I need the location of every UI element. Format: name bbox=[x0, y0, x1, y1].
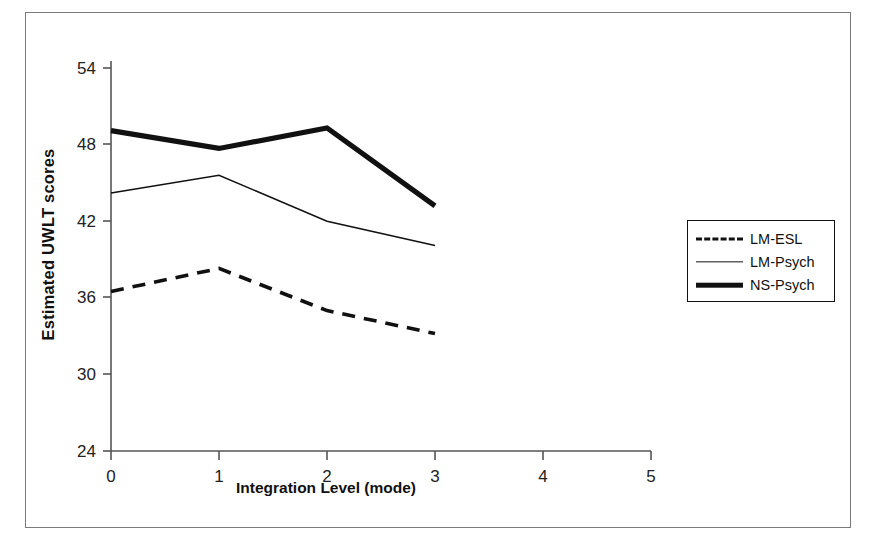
y-axis-title: Estimated UWLT scores bbox=[39, 75, 58, 415]
legend-label: NS-Psych bbox=[750, 277, 814, 293]
y-tick-label: 42 bbox=[54, 213, 96, 230]
y-tick-label: 36 bbox=[54, 289, 96, 306]
y-tick-label: 54 bbox=[54, 60, 96, 77]
legend-item-lm-esl: LM-ESL bbox=[696, 229, 802, 249]
legend-label: LM-Psych bbox=[750, 254, 814, 270]
thin-line-swatch-icon bbox=[696, 255, 743, 269]
legend-label: LM-ESL bbox=[750, 231, 802, 247]
series-line-lm-esl bbox=[111, 268, 435, 333]
thick-line-swatch-icon bbox=[696, 278, 743, 292]
legend-item-lm-psych: LM-Psych bbox=[696, 252, 814, 272]
x-axis-title: Integration Level (mode) bbox=[26, 479, 626, 497]
plot-area: 54 48 42 36 30 24 0 1 2 3 4 5 Estimated … bbox=[26, 13, 852, 529]
x-tick-label: 5 bbox=[636, 468, 666, 485]
y-tick-label: 30 bbox=[54, 366, 96, 383]
chart-legend: LM-ESL LM-Psych NS-Psych bbox=[687, 220, 835, 302]
dashed-line-swatch-icon bbox=[696, 232, 743, 246]
legend-item-ns-psych: NS-Psych bbox=[696, 275, 814, 295]
series-line-lm-psych bbox=[111, 175, 435, 245]
series-line-ns-psych bbox=[111, 128, 435, 206]
chart-figure: 54 48 42 36 30 24 0 1 2 3 4 5 Estimated … bbox=[25, 12, 851, 528]
y-tick-label: 24 bbox=[54, 443, 96, 460]
y-tick-label: 48 bbox=[54, 136, 96, 153]
